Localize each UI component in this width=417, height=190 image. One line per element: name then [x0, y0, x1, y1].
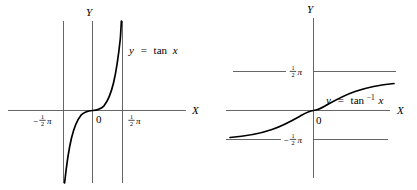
equation-argument: x [378, 94, 384, 106]
trigonometric-graphs-figure: Y X 0 − 1 2 π 1 2 π y = tan x [0, 0, 417, 190]
x-axis-label: X [191, 104, 200, 116]
tick-denominator: 2 [130, 120, 133, 127]
tick-numerator: 1 [291, 132, 294, 139]
tick-label-neg-half-pi: − 1 2 π [284, 132, 303, 147]
tick-pi-symbol: π [298, 67, 303, 77]
equation-lhs: y [325, 94, 331, 106]
tick-pi-symbol: π [136, 116, 141, 126]
tangent-panel: Y X 0 − 1 2 π 1 2 π y = tan x [0, 0, 209, 190]
equation-function: tan [154, 44, 168, 56]
tick-label-pos-half-pi: 1 2 π [128, 113, 141, 128]
equation-label-tan: y = tan x [128, 44, 178, 56]
tangent-curve [65, 21, 122, 183]
tick-pi-symbol: π [47, 116, 52, 126]
tick-numerator: 1 [291, 64, 294, 71]
arctangent-panel: Y X 0 1 2 π − 1 2 π y = tan −1 x [208, 0, 417, 190]
tick-denominator: 2 [41, 120, 44, 127]
tick-denominator: 2 [291, 71, 294, 78]
equation-equals: = [141, 44, 147, 56]
tick-minus-sign: − [33, 116, 38, 126]
y-axis-label: Y [307, 3, 315, 15]
svg-text:y = tan: y = tan x [128, 44, 178, 56]
tick-label-pos-half-pi: 1 2 π [290, 64, 303, 79]
tick-minus-sign: − [284, 135, 289, 145]
tick-label-neg-half-pi: − 1 2 π [33, 113, 52, 128]
x-axis-label: X [396, 104, 405, 116]
tick-pi-symbol: π [298, 135, 303, 145]
equation-argument: x [172, 44, 178, 56]
y-axis-label: Y [86, 6, 94, 18]
tick-numerator: 1 [130, 113, 133, 120]
tick-denominator: 2 [291, 139, 294, 146]
equation-function: tan [351, 94, 365, 106]
equation-equals: = [338, 94, 344, 106]
equation-lhs: y [128, 44, 134, 56]
origin-label: 0 [96, 113, 102, 125]
equation-superscript: −1 [367, 93, 375, 102]
tick-numerator: 1 [41, 113, 44, 120]
origin-label: 0 [316, 114, 322, 126]
